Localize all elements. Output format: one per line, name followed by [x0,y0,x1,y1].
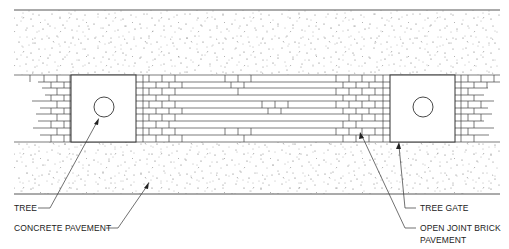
label-tree: TREE [14,203,37,214]
label-concrete-pavement: CONCRETE PAVEMENT [14,223,111,234]
concrete-pavement-bottom [14,142,500,194]
label-tree-gate: TREE GATE [420,203,468,214]
label-brick-pavement-line1: OPEN JOINT BRICK [420,223,501,234]
tree-icon-right [413,97,433,117]
tree-gate-left [71,75,136,142]
tree-icon-left [94,97,114,117]
label-brick-pavement-line2: PAVEMENT [420,235,466,246]
concrete-pavement-top [14,10,500,75]
tree-gate-right [390,75,455,142]
arrowhead-brick [359,132,364,139]
